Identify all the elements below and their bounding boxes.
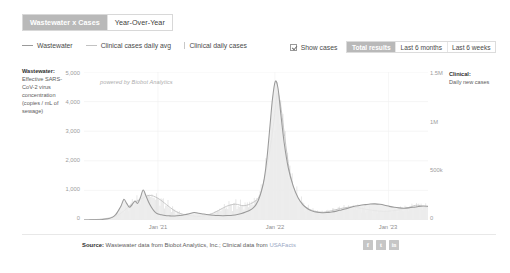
xtick-jan-21: Jan '21: [149, 224, 168, 230]
tab-year-over-year[interactable]: Year-Over-Year: [108, 15, 172, 30]
facebook-glyph: f: [363, 240, 373, 250]
twitter-glyph: t: [376, 240, 386, 250]
linkedin-icon[interactable]: in: [389, 240, 399, 250]
view-tabs[interactable]: Wastewater x Cases Year-Over-Year: [22, 14, 173, 31]
bar-swatch-icon: [184, 42, 186, 49]
series-legend: Wastewater Clinical cases daily avg Clin…: [22, 42, 247, 49]
chart-watermark: powered by Biobot Analytics: [100, 79, 173, 85]
legend-label-clinical-daily-avg: Clinical cases daily avg: [101, 42, 171, 49]
ytick-right-1m: 1M: [430, 119, 446, 125]
twitter-icon[interactable]: t: [376, 240, 386, 250]
right-axis-description: Clinical: Daily new cases: [449, 71, 501, 87]
legend-item-clinical-daily-cases[interactable]: Clinical daily cases: [184, 42, 247, 49]
linkedin-glyph: in: [389, 240, 399, 250]
show-cases-toggle[interactable]: Show cases: [290, 44, 337, 51]
ytick-left-1000: 1,000: [58, 186, 80, 192]
right-axis-text: Daily new cases: [449, 79, 489, 85]
left-axis-text: Effective SARS-CoV-2 virus concentration…: [22, 76, 62, 114]
right-axis-title: Clinical:: [449, 71, 501, 79]
legend-item-clinical-daily-avg[interactable]: Clinical cases daily avg: [86, 42, 171, 49]
ytick-left-5000: 5,000: [58, 70, 80, 76]
chart-svg: [84, 72, 428, 220]
social-share-buttons[interactable]: f t in: [363, 240, 399, 250]
ytick-left-4000: 4,000: [58, 99, 80, 105]
range-button-last-6-months[interactable]: Last 6 months: [396, 42, 447, 52]
legend-item-wastewater[interactable]: Wastewater: [22, 42, 73, 49]
ytick-left-3000: 3,000: [58, 128, 80, 134]
source-text: Wastewater data from Biobot Analytics, I…: [104, 242, 269, 248]
line-swatch-icon: [22, 45, 33, 47]
ytick-right-500k: 500k: [430, 167, 446, 173]
range-button-total-results[interactable]: Total results: [347, 42, 396, 52]
chart-controls: Show cases Total results Last 6 months L…: [290, 41, 496, 53]
facebook-icon[interactable]: f: [363, 240, 373, 250]
footer-divider: [22, 234, 496, 235]
show-cases-label: Show cases: [301, 44, 338, 51]
line-swatch-icon: [86, 45, 97, 47]
xtick-jan-23: Jan '23: [379, 224, 398, 230]
xtick-jan-22: Jan '22: [266, 224, 285, 230]
chart-widget: Wastewater x Cases Year-Over-Year Wastew…: [0, 0, 510, 273]
legend-label-clinical-daily-cases: Clinical daily cases: [189, 42, 246, 49]
tab-wastewater-x-cases[interactable]: Wastewater x Cases: [23, 15, 108, 30]
range-button-last-6-weeks[interactable]: Last 6 weeks: [448, 42, 495, 52]
ytick-right-0: 0: [430, 215, 446, 221]
ytick-right-1-5m: 1.5M: [430, 70, 446, 76]
source-note: Source: Wastewater data from Biobot Anal…: [82, 242, 296, 248]
legend-label-wastewater: Wastewater: [37, 42, 73, 49]
source-label: Source:: [82, 242, 104, 248]
checkbox-icon[interactable]: [290, 44, 297, 51]
source-link-usafacts[interactable]: USAFacts: [269, 242, 296, 248]
chart-plot-area[interactable]: [84, 72, 428, 220]
ytick-left-2000: 2,000: [58, 157, 80, 163]
ytick-left-0: 0: [58, 215, 80, 221]
date-range-buttons[interactable]: Total results Last 6 months Last 6 weeks: [346, 41, 496, 53]
